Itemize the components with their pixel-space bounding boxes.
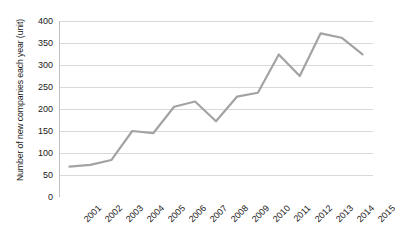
x-tick-label: 2003 xyxy=(124,203,145,224)
x-tick-label: 2004 xyxy=(145,203,166,224)
plot-area xyxy=(59,21,373,197)
data-series-line xyxy=(69,33,362,166)
x-tick-label: 2011 xyxy=(291,203,312,224)
plot-svg xyxy=(59,21,373,197)
y-tick-label: 100 xyxy=(38,148,53,158)
y-tick-label: 150 xyxy=(38,126,53,136)
x-tick-label: 2001 xyxy=(82,203,103,224)
x-tick-label: 2006 xyxy=(187,203,208,224)
x-tick-label: 2014 xyxy=(354,203,375,224)
gridlines xyxy=(59,21,373,197)
x-tick-label: 2010 xyxy=(271,203,292,224)
y-tick-label: 0 xyxy=(48,192,53,202)
x-tick-label: 2002 xyxy=(103,203,124,224)
x-tick-label: 2005 xyxy=(166,203,187,224)
x-tick-label: 2012 xyxy=(313,203,334,224)
y-tick-label: 400 xyxy=(38,16,53,26)
x-axis-tick-labels: 2001200220032004200520062007200820092010… xyxy=(59,197,373,245)
y-tick-label: 250 xyxy=(38,82,53,92)
x-tick-label: 2007 xyxy=(208,203,229,224)
y-tick-label: 350 xyxy=(38,38,53,48)
y-axis-tick-labels: 050100150200250300350400 xyxy=(18,16,56,202)
x-tick-label: 2009 xyxy=(250,203,271,224)
x-tick-label: 2015 xyxy=(375,203,396,224)
y-tick-label: 300 xyxy=(38,60,53,70)
x-tick-label: 2008 xyxy=(229,203,250,224)
x-tick-label: 2013 xyxy=(334,203,355,224)
y-tick-label: 50 xyxy=(43,170,53,180)
y-tick-label: 200 xyxy=(38,104,53,114)
